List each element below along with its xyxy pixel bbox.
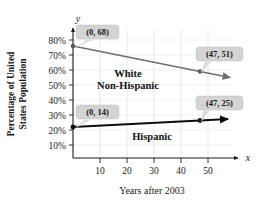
y-tick-label: 20% [49,126,67,136]
annotation-callout-47-25: (47, 25) [196,96,243,122]
chart-figure: 80% 70% 60% 50% 40% 30% 20% 10% 10 20 30… [0,0,266,204]
x-tick-label: 50 [203,166,213,176]
line-chart-canvas: 80% 70% 60% 50% 40% 30% 20% 10% 10 20 30… [0,0,266,204]
x-axis-ticks [100,158,208,163]
series-label-hispanic: Hispanic [132,131,172,142]
y-tick-label: 10% [49,141,67,151]
x-axis-title: Years after 2003 [119,185,185,196]
annotation-label: (47, 25) [206,98,233,108]
x-axis-tick-labels: 10 20 30 40 50 [95,166,213,176]
x-tick-label: 20 [122,166,132,176]
annotation-label: (0, 68) [86,27,109,37]
x-axis-variable-label: x [245,152,251,163]
x-tick-label: 40 [176,166,186,176]
y-tick-label: 50% [49,81,67,91]
y-tick-label: 40% [49,96,67,106]
x-tick-label: 30 [149,166,159,176]
y-tick-label: 80% [49,36,67,46]
annotation-callout-47-51: (47, 51) [196,47,243,73]
annotation-label: (47, 51) [206,49,233,59]
y-axis-title-line1: Percentage of United [6,51,16,136]
y-tick-label: 30% [49,111,67,121]
series-hispanic [71,118,228,129]
series-label-line1: White [114,68,142,79]
x-tick-label: 10 [95,166,105,176]
y-axis-title: Percentage of United States Population [6,51,28,136]
y-axis-title-line2: States Population [18,58,28,130]
series-label-line2: Non-Hispanic [97,80,159,91]
series-label-white-non-hispanic: White Non-Hispanic [97,68,159,91]
y-tick-label: 70% [49,51,67,61]
y-axis-tick-labels: 80% 70% 60% 50% 40% 30% 20% 10% [49,36,67,151]
data-point-marker [71,125,76,130]
annotation-callout-0-68: (0, 68) [76,25,120,48]
y-tick-label: 60% [49,66,67,76]
data-point-marker [71,44,76,49]
annotation-label: (0, 14) [86,107,109,117]
y-axis-variable-label: y [75,13,81,24]
